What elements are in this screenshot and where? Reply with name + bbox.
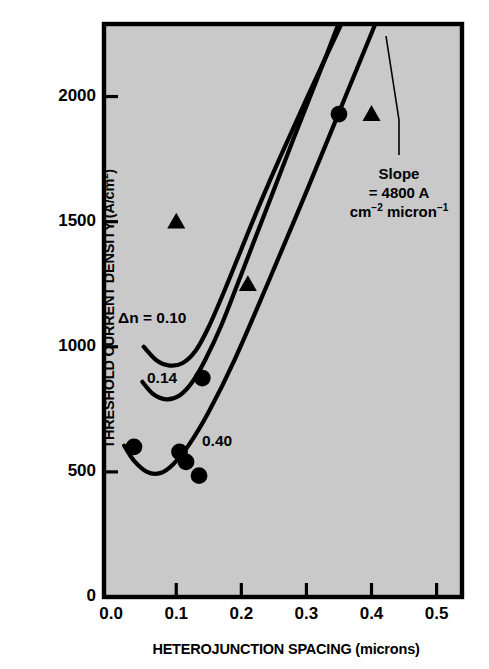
x-axis-title: HETEROJUNCTION SPACING (microns) bbox=[96, 641, 476, 657]
y-tick-label: 500 bbox=[34, 461, 96, 481]
slope-units-micron-exponent: −1 bbox=[437, 202, 448, 213]
x-tick-label: 0.1 bbox=[150, 604, 202, 624]
data-point-circle bbox=[331, 106, 348, 123]
x-tick-label: 0.5 bbox=[411, 604, 463, 624]
y-tick-label: 1000 bbox=[34, 336, 96, 356]
y-tick-label: 1500 bbox=[34, 211, 96, 231]
y-axis-title-main: THRESHOLD CURRENT DENSITY (A/cm bbox=[101, 179, 117, 449]
data-point-circle bbox=[194, 370, 211, 387]
x-tick-label: 0.2 bbox=[215, 604, 267, 624]
slope-units-micron: micron bbox=[383, 203, 437, 220]
slope-annotation-line-1: Slope bbox=[329, 164, 469, 183]
curve-label-dn-040: 0.40 bbox=[202, 432, 232, 450]
x-tick-label: 0.0 bbox=[85, 604, 137, 624]
y-axis-title-close: ) bbox=[101, 169, 117, 174]
y-tick-label: 2000 bbox=[34, 86, 96, 106]
figure-root: THRESHOLD CURRENT DENSITY (A/cm2) HETERO… bbox=[0, 0, 489, 669]
slope-annotation: Slope = 4800 A cm−2 micron−1 bbox=[329, 164, 469, 222]
slope-units-cm: cm bbox=[350, 203, 372, 220]
curve-label-dn-014: 0.14 bbox=[147, 369, 177, 387]
slope-units-cm-exponent: −2 bbox=[371, 202, 382, 213]
slope-annotation-line-2: = 4800 A bbox=[329, 183, 469, 202]
x-tick-label: 0.4 bbox=[346, 604, 398, 624]
data-point-circle bbox=[178, 453, 195, 470]
y-axis-title: THRESHOLD CURRENT DENSITY (A/cm2) bbox=[99, 89, 117, 529]
y-axis-title-exponent: 2 bbox=[99, 174, 110, 179]
data-point-circle bbox=[126, 438, 143, 455]
slope-annotation-line-3: cm−2 micron−1 bbox=[329, 202, 469, 221]
y-tick-label: 0 bbox=[34, 586, 96, 606]
x-tick-label: 0.3 bbox=[280, 604, 332, 624]
curve-label-dn-010: Δn = 0.10 bbox=[118, 309, 186, 327]
data-point-circle bbox=[191, 467, 208, 484]
